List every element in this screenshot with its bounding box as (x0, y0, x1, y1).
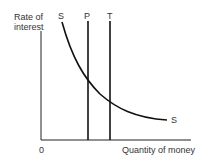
y-axis-label-line1: Rate of (14, 12, 43, 22)
t-line-label: T (107, 11, 113, 21)
s-curve (62, 22, 167, 120)
p-line-label: P (84, 11, 90, 21)
s-curve-top-label: S (58, 11, 64, 21)
y-axis-label-line2: interest (14, 22, 44, 32)
origin-label: 0 (39, 145, 44, 155)
x-axis-label: Quantity of money (122, 145, 195, 155)
s-curve-end-label: S (171, 115, 177, 125)
